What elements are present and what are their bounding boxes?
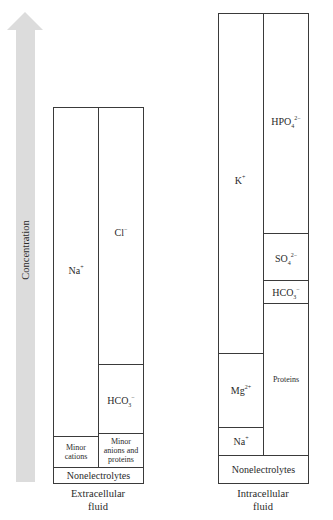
ecf-minor-anions-line1: Minor [111,437,131,446]
ecf-caption: Extracellular fluid [48,487,148,513]
icf-na-label: Na+ [233,436,248,447]
icf-proteins-label: Proteins [273,375,299,384]
ecf-cl-label: Cl− [115,227,128,238]
ecf-hco3-label: HCO3− [107,395,135,406]
icf-k-label: K+ [235,175,246,186]
icf-nonelectrolytes-block: Nonelectrolytes [218,455,309,484]
ecf-minor-anions-line2: anions and [104,446,138,455]
ecf-minor-anions-block: Minor anions and proteins [98,433,144,468]
icf-caption: Intracellular fluid [213,487,313,513]
icf-mg-label: Mg2+ [231,385,251,396]
ecf-minor-anions-line3: proteins [108,455,134,464]
ecf-nonelectrolytes-label: Nonelectrolytes [67,470,130,481]
icf-hpo4-label: HPO42− [271,116,300,127]
ecf-minor-cations-line1: Minor [66,443,86,452]
ecf-nonelectrolytes-block: Nonelectrolytes [53,467,144,484]
arrow-head-icon [7,12,43,30]
ecf-minor-cations-block: Minor cations [53,436,99,468]
ecf-na-label: Na+ [68,265,83,276]
concentration-axis-label: Concentration [20,220,31,279]
icf-so4-label: SO42− [275,253,297,264]
icf-nonelectrolytes-label: Nonelectrolytes [232,464,295,475]
icf-hco3-label: HCO3− [272,287,300,298]
ecf-minor-cations-line2: cations [65,452,88,461]
